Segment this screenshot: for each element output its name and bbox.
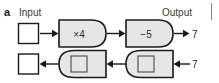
diagram-canvas: a Input Output ×4 −5 7 bbox=[0, 0, 219, 83]
arrow-op1-to-op2-head bbox=[119, 30, 126, 37]
forward-output-value: 7 bbox=[192, 29, 198, 40]
arrow-invinput-to-invop2-head bbox=[174, 60, 181, 67]
inverse-input-value: 7 bbox=[192, 59, 198, 70]
forward-op1-label: ×4 bbox=[73, 29, 85, 40]
forward-op2-label: −5 bbox=[140, 29, 152, 40]
inverse-op2-blank-slot[interactable] bbox=[138, 56, 154, 72]
forward-op2-machine[interactable]: −5 bbox=[126, 20, 173, 47]
forward-input-blank-box[interactable] bbox=[19, 24, 39, 44]
output-header-label: Output bbox=[162, 7, 192, 18]
arrow-invop2-to-invop1-head bbox=[107, 60, 114, 67]
function-machine-figure: a Input Output ×4 −5 7 bbox=[0, 0, 219, 83]
inverse-op1-machine[interactable] bbox=[59, 51, 106, 78]
arrow-op2-to-output-head bbox=[183, 30, 190, 37]
inverse-op2-machine[interactable] bbox=[126, 51, 173, 78]
panel-letter: a bbox=[4, 6, 11, 18]
inverse-result-blank-box[interactable] bbox=[19, 54, 39, 74]
forward-op1-machine[interactable]: ×4 bbox=[59, 20, 106, 47]
arrow-input-to-op1-head bbox=[52, 30, 59, 37]
arrow-invop1-to-result-head bbox=[40, 60, 47, 67]
input-header-label: Input bbox=[19, 7, 41, 18]
inverse-op1-blank-slot[interactable] bbox=[71, 56, 87, 72]
